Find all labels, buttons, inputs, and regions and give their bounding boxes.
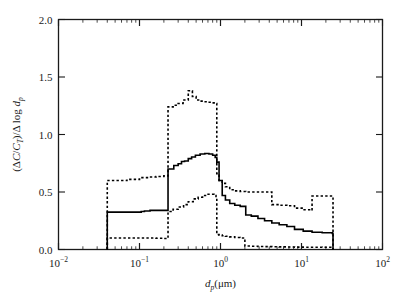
series-median — [107, 153, 333, 249]
x-tick-label: 102 — [375, 255, 390, 269]
series-upper-bound — [107, 91, 333, 250]
y-tick-label: 0.0 — [39, 244, 53, 256]
y-axis-tick-labels: 0.00.51.01.52.0 — [39, 14, 53, 256]
figure-container: 10−210−1100101102 0.00.51.01.52.0 dp(μm)… — [0, 0, 404, 306]
chart-canvas: 10−210−1100101102 0.00.51.01.52.0 dp(μm)… — [0, 0, 404, 306]
y-axis-title: (ΔC/CT)/Δ log dp — [10, 97, 25, 172]
x-tick-label: 10−2 — [49, 255, 68, 269]
x-tick-label: 100 — [213, 255, 228, 269]
y-tick-label: 1.0 — [39, 129, 53, 141]
x-tick-label: 101 — [294, 255, 309, 269]
data-series-group — [107, 91, 333, 250]
series-lower-bound — [107, 194, 333, 249]
y-tick-label: 2.0 — [39, 14, 53, 26]
y-tick-label: 1.5 — [39, 71, 53, 83]
y-tick-label: 0.5 — [39, 186, 53, 198]
x-axis-title-text: dp(μm) — [205, 277, 236, 292]
x-axis-tick-labels: 10−210−1100101102 — [49, 255, 390, 269]
y-axis-title-text: (ΔC/CT)/Δ log dp — [10, 97, 25, 172]
x-tick-label: 10−1 — [130, 255, 149, 269]
x-axis-title: dp(μm) — [205, 277, 236, 292]
